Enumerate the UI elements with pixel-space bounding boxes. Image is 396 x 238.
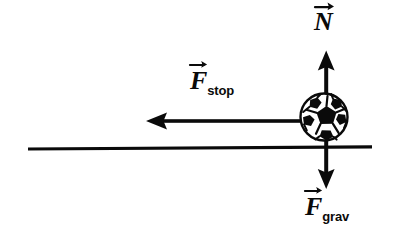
normal-force-symbol: N (314, 9, 333, 35)
gravity-force-letter: F (305, 192, 322, 221)
stopping-force-symbol: F (190, 68, 207, 94)
vector-arrow-icon (189, 59, 208, 68)
stopping-force-letter: F (190, 66, 207, 95)
label-normal-force: N (314, 9, 333, 35)
normal-force-letter: N (314, 7, 333, 36)
label-stopping-force: F stop (190, 68, 234, 94)
ground-line (28, 145, 372, 150)
gravity-force-subscript: grav (322, 209, 349, 224)
soccer-ball (301, 94, 348, 141)
gravity-force-symbol: F (305, 194, 322, 220)
label-gravity-force: F grav (305, 194, 349, 220)
force-arrow-stop (146, 113, 306, 130)
vector-arrow-icon (314, 1, 335, 10)
free-body-diagram: N F stop F grav (0, 0, 396, 238)
stopping-force-subscript: stop (207, 83, 234, 98)
vector-arrow-icon (304, 185, 323, 194)
